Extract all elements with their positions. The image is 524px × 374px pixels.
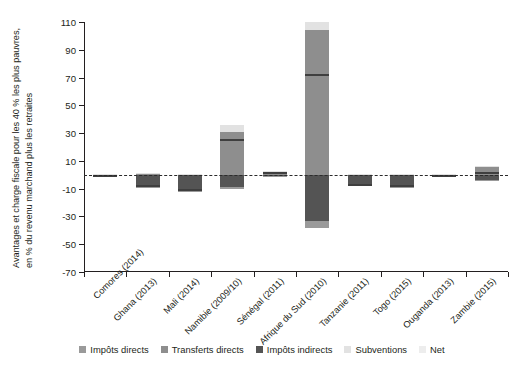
legend-label: Transferts directs [172, 344, 244, 355]
y-axis-title: Avantages et charge fiscale pour les 40 … [10, 28, 35, 268]
bar-group [263, 22, 287, 272]
y-axis-tick-label: 30 [65, 128, 76, 139]
y-axis-title-line2: en % du revenu marchand plus les retrait… [23, 28, 36, 268]
legend-item: Net [419, 344, 445, 355]
y-axis-tick-label: 110 [61, 17, 76, 28]
bar-segment [220, 175, 244, 188]
y-axis-line [84, 22, 85, 272]
y-axis-tick: -50 [79, 244, 84, 245]
y-axis-tick: 30 [79, 133, 84, 134]
y-axis-tick-label: -70 [62, 267, 76, 278]
bar-segment [475, 166, 499, 167]
net-marker [263, 172, 287, 174]
plot-area: -70-50-30-101030507090110 [84, 22, 508, 272]
bar-segment [220, 125, 244, 131]
bar-segment [475, 180, 499, 181]
legend-item: Impôts directs [79, 344, 148, 355]
x-axis-tick-label: Comores (2014) [91, 276, 116, 301]
bar-group [136, 22, 160, 272]
legend-swatch-icon [419, 346, 426, 353]
y-axis-tick: -30 [79, 216, 84, 217]
legend-label: Subventions [355, 344, 407, 355]
y-axis-tick: 10 [79, 161, 84, 162]
bar-segment [136, 187, 160, 188]
bar-segment [305, 30, 329, 174]
legend-swatch-icon [344, 346, 351, 353]
legend-label: Impôts indirects [267, 344, 333, 355]
y-axis-tick-label: -10 [62, 183, 76, 194]
bar-segment [305, 22, 329, 30]
chart-legend: Impôts directsTransferts directsImpôts i… [0, 344, 524, 355]
y-axis-tick: 90 [79, 50, 84, 51]
bar-group [305, 22, 329, 272]
y-axis-tick-label: -30 [62, 211, 76, 222]
net-marker [390, 185, 414, 187]
net-marker [305, 74, 329, 76]
y-axis-tick-label: 70 [65, 72, 76, 83]
legend-label: Net [430, 344, 445, 355]
y-axis-tick-label: 90 [65, 44, 76, 55]
legend-item: Impôts indirects [256, 344, 333, 355]
legend-swatch-icon [79, 346, 86, 353]
y-axis-tick-label: 10 [65, 155, 76, 166]
zero-reference-line [84, 175, 508, 176]
legend-swatch-icon [161, 346, 168, 353]
y-axis-tick-label: 50 [65, 100, 76, 111]
net-marker [136, 185, 160, 187]
bar-group [93, 22, 117, 272]
legend-item: Subventions [344, 344, 407, 355]
y-axis-tick-label: -50 [62, 239, 76, 250]
chart-figure: Avantages et charge fiscale pour les 40 … [0, 0, 524, 374]
x-axis-tick [508, 272, 509, 277]
net-marker [220, 139, 244, 141]
bar-segment [305, 221, 329, 228]
y-axis-tick: 50 [79, 105, 84, 106]
y-axis-tick: -10 [79, 189, 84, 190]
y-axis-title-line1: Avantages et charge fiscale pour les 40 … [10, 28, 23, 268]
legend-label: Impôts directs [90, 344, 148, 355]
bar-group [348, 22, 372, 272]
net-marker [178, 189, 202, 191]
bar-group [475, 22, 499, 272]
bar-segment [305, 175, 329, 221]
y-axis-tick: 110 [79, 22, 84, 23]
net-marker [348, 184, 372, 186]
bar-segment [220, 187, 244, 189]
legend-item: Transferts directs [161, 344, 244, 355]
bar-segment [263, 176, 287, 177]
bar-group [390, 22, 414, 272]
y-axis-title-wrap: Avantages et charge fiscale pour les 40 … [0, 0, 46, 290]
y-axis-tick: 70 [79, 78, 84, 79]
legend-swatch-icon [256, 346, 263, 353]
bar-group [220, 22, 244, 272]
bar-group [432, 22, 456, 272]
bar-group [178, 22, 202, 272]
x-axis-tick-labels: Comores (2014)Ghana (2013)Mali (2014)Nam… [84, 272, 508, 342]
